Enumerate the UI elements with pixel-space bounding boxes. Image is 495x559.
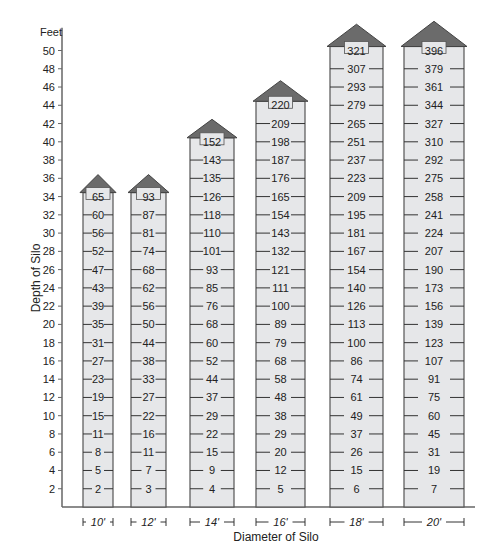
y-axis-title: Depth of Silo (29, 243, 43, 312)
y-tick-label: 4 (49, 464, 55, 476)
silo-value: 37 (206, 391, 218, 403)
silo-value: 173 (425, 282, 443, 294)
silo-value: 118 (203, 209, 221, 221)
silo-value: 110 (203, 227, 221, 239)
silo-value: 6 (353, 483, 359, 495)
y-tick-label: 34 (43, 191, 55, 203)
silo-capacity-chart: 2468101214161820222426283032343638404244… (0, 0, 495, 559)
y-axis-unit-label: Feet (40, 26, 62, 38)
silo-value: 190 (425, 264, 443, 276)
silo-value: 209 (271, 118, 289, 130)
y-tick-label: 16 (43, 355, 55, 367)
silo-value: 8 (95, 446, 101, 458)
silo-value: 15 (92, 410, 104, 422)
silo-value: 39 (92, 300, 104, 312)
y-tick-label: 36 (43, 172, 55, 184)
silo-value: 38 (142, 355, 154, 367)
silo-value: 2 (95, 483, 101, 495)
silo-value: 68 (142, 264, 154, 276)
silo-value: 7 (431, 483, 437, 495)
silo-value: 123 (425, 337, 443, 349)
silo-value: 87 (142, 209, 154, 221)
silo-value: 20 (274, 446, 286, 458)
silo-value: 5 (277, 483, 283, 495)
silo-value: 187 (271, 154, 289, 166)
silo-value: 139 (425, 318, 443, 330)
silo-value: 181 (347, 227, 365, 239)
y-tick-label: 2 (49, 483, 55, 495)
diameter-label: 10' (91, 516, 106, 528)
silo-value: 224 (425, 227, 443, 239)
silo-value: 209 (347, 191, 365, 203)
silo-value: 7 (145, 464, 151, 476)
silo-value: 22 (206, 428, 218, 440)
y-tick-label: 44 (43, 99, 55, 111)
silo-value: 61 (350, 391, 362, 403)
silo-value: 29 (206, 410, 218, 422)
silo-value: 68 (274, 355, 286, 367)
silo-value: 50 (142, 318, 154, 330)
y-tick-label: 48 (43, 63, 55, 75)
silo-value: 327 (425, 118, 443, 130)
silo-body (131, 193, 166, 507)
silo-value: 56 (142, 300, 154, 312)
silo-value: 111 (272, 282, 289, 294)
y-tick-label: 14 (43, 373, 55, 385)
silo-value: 75 (428, 391, 440, 403)
y-tick-label: 30 (43, 227, 55, 239)
silo-value: 52 (206, 355, 218, 367)
silo-value: 15 (206, 446, 218, 458)
silo-18ft: 6152637496174861001131261401541671811952… (327, 24, 386, 507)
y-tick-label: 22 (43, 300, 55, 312)
silos: 2581115192327313539434752566065371116222… (80, 21, 467, 507)
silo-value: 93 (206, 264, 218, 276)
silo-value: 241 (425, 209, 443, 221)
y-tick-label: 24 (43, 282, 55, 294)
silo-value: 58 (274, 373, 286, 385)
silo-value: 85 (206, 282, 218, 294)
diameter-label: 14' (205, 516, 220, 528)
silo-value: 4 (209, 483, 215, 495)
silo-value: 165 (271, 191, 289, 203)
y-tick-label: 32 (43, 209, 55, 221)
silo-value: 43 (92, 282, 104, 294)
silo-20ft: 7193145607591107123139156173190207224241… (401, 21, 467, 507)
y-tick-label: 8 (49, 428, 55, 440)
y-tick-label: 42 (43, 118, 55, 130)
y-tick-label: 26 (43, 264, 55, 276)
silo-10ft: 2581115192327313539434752566065 (80, 175, 116, 507)
silo-value: 143 (203, 154, 221, 166)
silo-value: 100 (271, 300, 289, 312)
silo-value: 86 (350, 355, 362, 367)
silo-value: 12 (274, 464, 286, 476)
silo-value: 396 (425, 45, 443, 57)
silo-value: 275 (425, 172, 443, 184)
silo-value: 9 (209, 464, 215, 476)
silo-value: 29 (274, 428, 286, 440)
silo-value: 91 (428, 373, 440, 385)
silo-value: 152 (203, 136, 221, 148)
silo-value: 361 (425, 81, 443, 93)
silo-value: 11 (143, 446, 154, 458)
silo-value: 121 (271, 264, 289, 276)
silo-value: 60 (92, 209, 104, 221)
silo-value: 5 (95, 464, 101, 476)
y-tick-label: 12 (43, 391, 55, 403)
silo-value: 31 (92, 337, 104, 349)
silo-value: 258 (425, 191, 443, 203)
silo-value: 167 (347, 245, 365, 257)
silo-value: 74 (142, 245, 154, 257)
silo-value: 27 (142, 391, 154, 403)
silo-value: 79 (274, 337, 286, 349)
silo-value: 76 (206, 300, 218, 312)
silo-value: 310 (425, 136, 443, 148)
silo-value: 100 (347, 337, 365, 349)
y-tick-label: 38 (43, 154, 55, 166)
silo-value: 251 (347, 136, 365, 148)
y-tick-label: 10 (43, 410, 55, 422)
silo-value: 307 (347, 63, 365, 75)
silo-value: 27 (92, 355, 104, 367)
silo-12ft: 37111622273338445056626874818793 (128, 175, 169, 507)
silo-value: 16 (142, 428, 154, 440)
silo-16ft: 5122029384858687989100111121132143154165… (253, 81, 308, 507)
